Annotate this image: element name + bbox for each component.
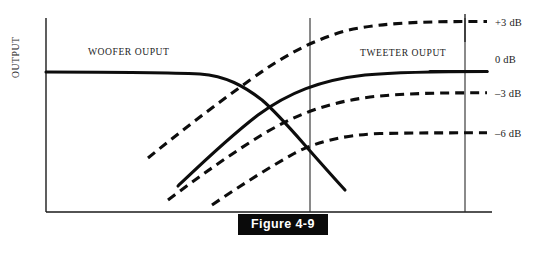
figure-4-9: OUTPUT WOOFER OUPUT TWEETER OUPUT +3 dB … — [0, 0, 535, 253]
db-label-plus3: +3 dB — [495, 17, 522, 28]
db-label-zero: 0 dB — [495, 54, 516, 65]
tweeter-output-curve — [178, 72, 487, 187]
db-label-minus6: –6 dB — [495, 128, 521, 139]
tweeter-output-label: TWEETER OUPUT — [360, 47, 446, 58]
y-axis-label: OUTPUT — [10, 8, 21, 78]
figure-caption: Figure 4-9 — [238, 214, 328, 235]
woofer-output-label: WOOFER OUPUT — [88, 46, 170, 57]
tweeter-minus6-curve — [212, 133, 487, 205]
tweeter-minus3-curve — [168, 93, 487, 200]
tweeter-plus3-curve — [148, 22, 487, 159]
db-label-minus3: –3 dB — [495, 88, 521, 99]
